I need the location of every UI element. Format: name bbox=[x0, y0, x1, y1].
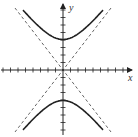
x-axis bbox=[1, 68, 132, 73]
hyperbola-figure: y x bbox=[0, 0, 138, 137]
y-axis-label: y bbox=[68, 2, 74, 13]
x-axis-label: x bbox=[127, 72, 133, 83]
